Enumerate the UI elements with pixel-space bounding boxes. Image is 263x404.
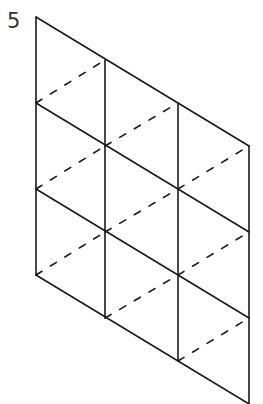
dashed-cell-diagonal	[178, 146, 249, 189]
dashed-cell-diagonal	[105, 189, 178, 232]
dashed-cell-diagonal	[36, 232, 105, 275]
dashed-cell-diagonal	[178, 318, 249, 361]
solid-grid-lines	[36, 17, 249, 404]
diagonal-edge	[36, 189, 249, 318]
dashed-cell-diagonal	[105, 275, 178, 318]
dashed-cell-diagonal	[178, 232, 249, 275]
dashed-cell-diagonal	[36, 60, 105, 103]
dashed-cell-diagonal	[105, 103, 178, 146]
diagonal-edge	[36, 275, 249, 404]
dashed-cell-diagonal	[36, 146, 105, 189]
diagonal-edge	[36, 17, 249, 146]
triangulated-rhombus-diagram	[0, 0, 263, 404]
dashed-diagonal-lines	[36, 60, 249, 361]
diagonal-edge	[36, 103, 249, 232]
